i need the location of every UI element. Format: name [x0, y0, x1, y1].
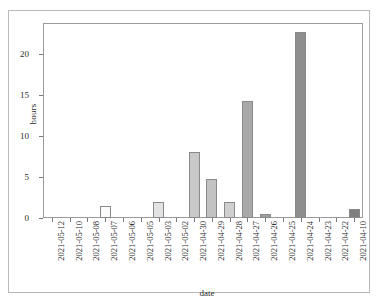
- x-tick-label: 2021-04-22: [340, 221, 351, 285]
- y-tick-label: 5: [7, 172, 29, 182]
- y-tick-mark: [39, 177, 43, 178]
- x-axis-title: date: [43, 288, 371, 298]
- x-tick-label: 2021-05-05: [145, 221, 156, 285]
- bar: [349, 209, 360, 218]
- y-tick-label: 20: [7, 49, 29, 59]
- x-tick-mark: [141, 218, 142, 222]
- figure-frame: hours date 05101520 2021-05-122021-05-10…: [8, 10, 370, 293]
- x-tick-label: 2021-04-28: [234, 221, 245, 285]
- y-tick-mark: [39, 95, 43, 96]
- x-tick-label: 2021-05-12: [56, 221, 67, 285]
- x-tick-mark: [212, 218, 213, 222]
- x-tick-label: 2021-04-26: [269, 221, 280, 285]
- bar: [260, 214, 271, 218]
- x-tick-label: 2021-05-07: [109, 221, 120, 285]
- x-tick-label: 2021-04-23: [323, 221, 334, 285]
- x-tick-mark: [265, 218, 266, 222]
- y-tick-mark: [39, 54, 43, 55]
- bar: [189, 152, 200, 218]
- bar: [206, 179, 217, 218]
- x-tick-mark: [301, 218, 302, 222]
- x-tick-mark: [159, 218, 160, 222]
- x-tick-label: 2021-04-24: [305, 221, 316, 285]
- x-tick-mark: [247, 218, 248, 222]
- x-tick-label: 2021-04-10: [358, 221, 369, 285]
- y-tick-mark: [39, 136, 43, 137]
- y-tick-label: 10: [7, 131, 29, 141]
- x-tick-label: 2021-04-30: [198, 221, 209, 285]
- x-tick-label: 2021-05-08: [91, 221, 102, 285]
- x-tick-mark: [105, 218, 106, 222]
- x-tick-mark: [70, 218, 71, 222]
- x-tick-mark: [354, 218, 355, 222]
- y-tick-label: 0: [7, 213, 29, 223]
- x-tick-mark: [194, 218, 195, 222]
- bar: [224, 202, 235, 218]
- x-tick-label: 2021-04-27: [251, 221, 262, 285]
- bar: [153, 202, 164, 218]
- x-tick-mark: [52, 218, 53, 222]
- x-tick-mark: [336, 218, 337, 222]
- x-tick-label: 2021-05-02: [180, 221, 191, 285]
- y-tick-mark: [39, 218, 43, 219]
- x-tick-mark: [230, 218, 231, 222]
- y-tick-label: 15: [7, 90, 29, 100]
- x-tick-label: 2021-04-25: [287, 221, 298, 285]
- x-tick-label: 2021-05-10: [74, 221, 85, 285]
- bar-chart-figure: hours date 05101520 2021-05-122021-05-10…: [9, 11, 369, 292]
- x-tick-label: 2021-05-03: [163, 221, 174, 285]
- x-tick-mark: [319, 218, 320, 222]
- x-tick-mark: [283, 218, 284, 222]
- x-tick-label: 2021-04-29: [216, 221, 227, 285]
- x-tick-mark: [176, 218, 177, 222]
- y-axis-title: hours: [28, 84, 38, 144]
- x-tick-mark: [123, 218, 124, 222]
- bar: [100, 206, 111, 218]
- plot-panel: [43, 23, 363, 218]
- bar: [295, 32, 306, 218]
- bar: [242, 101, 253, 218]
- x-tick-label: 2021-05-06: [127, 221, 138, 285]
- x-tick-mark: [87, 218, 88, 222]
